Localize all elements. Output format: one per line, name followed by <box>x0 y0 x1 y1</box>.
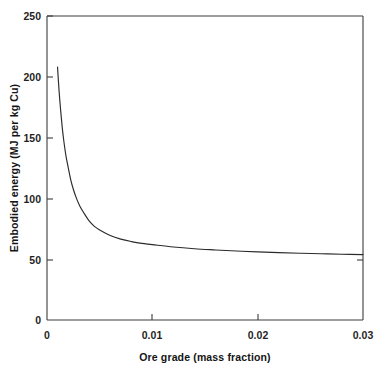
x-tick-label-0.01: 0.01 <box>142 329 163 341</box>
x-tick-label-0: 0 <box>44 329 50 341</box>
y-tick-label-200: 200 <box>23 71 41 83</box>
x-tick-label-0.03: 0.03 <box>353 329 374 341</box>
chart-figure: 250 200 150 100 50 0 0 0.01 0.02 0.03 Or… <box>0 0 389 368</box>
y-tick-label-100: 100 <box>23 193 41 205</box>
y-axis-title: Embodied energy (MJ per kg Cu) <box>8 84 20 252</box>
chart-svg: 250 200 150 100 50 0 0 0.01 0.02 0.03 Or… <box>0 0 389 368</box>
x-tick-label-0.02: 0.02 <box>248 329 269 341</box>
x-axis-title: Ore grade (mass fraction) <box>139 351 271 363</box>
y-tick-label-250: 250 <box>23 10 41 22</box>
y-tick-label-150: 150 <box>23 132 41 144</box>
y-tick-label-0: 0 <box>35 314 41 326</box>
y-tick-label-50: 50 <box>29 254 41 266</box>
figure-background <box>0 0 389 368</box>
